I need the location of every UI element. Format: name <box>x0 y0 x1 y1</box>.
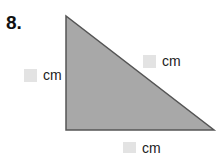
unit-left: cm <box>43 67 62 83</box>
answer-box-left[interactable] <box>24 69 37 82</box>
hypotenuse-label: cm <box>143 53 181 69</box>
answer-box-hypotenuse[interactable] <box>143 55 156 68</box>
bottom-side-label: cm <box>123 140 161 153</box>
answer-box-bottom[interactable] <box>123 142 136 154</box>
left-side-label: cm <box>24 67 62 83</box>
unit-bottom: cm <box>142 140 161 153</box>
unit-hypotenuse: cm <box>162 53 181 69</box>
